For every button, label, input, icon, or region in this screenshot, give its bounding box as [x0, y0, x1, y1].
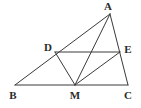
segment-dm [55, 52, 75, 85]
geometry-figure: A B C M D E [0, 0, 141, 108]
vertex-label-b: B [9, 90, 16, 101]
segment-ba [15, 14, 110, 85]
segment-am [75, 14, 110, 85]
segment-me [75, 52, 120, 85]
vertex-label-c: C [124, 90, 132, 101]
vertex-label-a: A [104, 1, 112, 12]
vertex-label-d: D [44, 42, 52, 53]
vertex-label-e: E [124, 44, 131, 55]
segments-group [15, 14, 128, 85]
vertex-label-m: M [70, 90, 80, 101]
